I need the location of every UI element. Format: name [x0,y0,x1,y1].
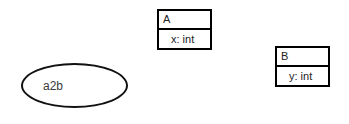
class-box-a[interactable]: A x: int [157,9,212,50]
class-attribute-b: y: int [277,67,328,85]
ellipse-label: a2b [23,79,63,93]
class-attribute-a: x: int [159,30,210,48]
diagram-canvas: a2b A x: int B y: int [0,0,349,124]
ellipse-node-a2b[interactable]: a2b [21,63,128,108]
class-name-a: A [159,11,210,30]
class-name-b: B [277,48,328,67]
class-box-b[interactable]: B y: int [275,46,330,87]
